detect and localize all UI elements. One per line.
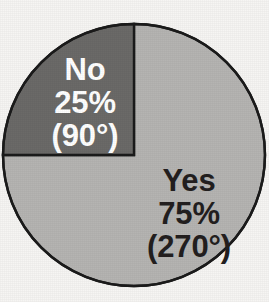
pie-label-yes-percent: 75%: [124, 198, 254, 231]
pie-label-no: No 25% (90°): [22, 54, 148, 153]
pie-label-no-name: No: [22, 54, 148, 87]
pie-label-no-degrees: (90°): [22, 120, 148, 153]
pie-chart-figure: No 25% (90°) Yes 75% (270°): [0, 0, 269, 302]
pie-label-yes-degrees: (270°): [124, 231, 254, 264]
pie-label-yes-name: Yes: [124, 165, 254, 198]
pie-label-yes: Yes 75% (270°): [124, 165, 254, 264]
pie-label-no-percent: 25%: [22, 87, 148, 120]
